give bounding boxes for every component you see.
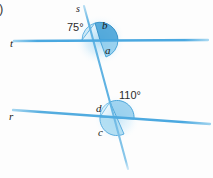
angle-label-c: c [98,127,103,138]
angle-label-75: 75° [67,22,84,33]
angle-label-d: d [96,103,102,114]
line-label-s: s [76,4,80,14]
list-marker: ) [0,2,3,15]
line-label-t: t [10,38,13,49]
angle-label-a: a [105,45,111,56]
geometry-figure: ) t r s 75° b a 110° d c [0,0,213,178]
angle-label-b: b [102,20,108,31]
line-t [14,40,208,41]
angle-label-110: 110° [119,90,141,101]
line-label-r: r [9,111,13,122]
